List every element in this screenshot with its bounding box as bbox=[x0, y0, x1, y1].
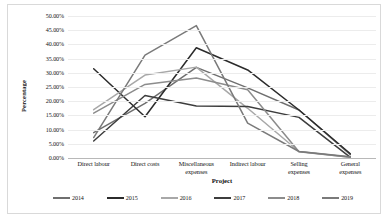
y-axis-tick-label: 10.00% bbox=[46, 127, 64, 133]
gridline bbox=[68, 115, 376, 116]
category-label-line: expenses bbox=[165, 168, 227, 176]
legend-line-icon bbox=[322, 197, 339, 199]
gridline bbox=[68, 44, 376, 45]
y-axis-tick-label: 5.00% bbox=[49, 141, 64, 147]
series-line-2014 bbox=[94, 67, 351, 154]
y-axis-tick-label: 40.00% bbox=[46, 41, 64, 47]
y-axis-tick-label: 30.00% bbox=[46, 70, 64, 76]
legend-item-2016[interactable]: 2016 bbox=[161, 195, 192, 201]
series-line-2018 bbox=[94, 78, 351, 157]
x-axis-category-label: Generalexpenses bbox=[319, 160, 381, 176]
y-axis-tick-label: 15.00% bbox=[46, 112, 64, 118]
legend-label: 2015 bbox=[126, 195, 138, 201]
gridline bbox=[68, 30, 376, 31]
line-chart-figure: Percentage 50.00%45.00%40.00%35.00%30.00… bbox=[7, 4, 381, 214]
legend-item-2014[interactable]: 2014 bbox=[53, 195, 84, 201]
gridline bbox=[68, 16, 376, 17]
legend-label: 2016 bbox=[180, 195, 192, 201]
y-axis-tick-label: 25.00% bbox=[46, 84, 64, 90]
legend-item-2017[interactable]: 2017 bbox=[214, 195, 245, 201]
plot-wrapper: Percentage 50.00%45.00%40.00%35.00%30.00… bbox=[8, 5, 380, 213]
legend-line-icon bbox=[161, 197, 178, 199]
y-axis-tick-label: 35.00% bbox=[46, 56, 64, 62]
legend-label: 2017 bbox=[233, 195, 245, 201]
legend-line-icon bbox=[53, 197, 70, 199]
legend-line-icon bbox=[107, 197, 124, 199]
chart-legend: 201420152016201720182019 bbox=[53, 192, 353, 204]
gridline bbox=[68, 130, 376, 131]
y-axis-tick-labels: 50.00%45.00%40.00%35.00%30.00%25.00%20.0… bbox=[30, 16, 66, 158]
gridline bbox=[68, 101, 376, 102]
legend-item-2018[interactable]: 2018 bbox=[268, 195, 299, 201]
legend-label: 2014 bbox=[72, 195, 84, 201]
y-axis-title: Percentage bbox=[16, 61, 30, 131]
gridline bbox=[68, 59, 376, 60]
legend-item-2015[interactable]: 2015 bbox=[107, 195, 138, 201]
x-axis-title: Project bbox=[68, 177, 376, 184]
legend-item-2019[interactable]: 2019 bbox=[322, 195, 353, 201]
legend-line-icon bbox=[214, 197, 231, 199]
y-axis-tick-label: 45.00% bbox=[46, 27, 64, 33]
plot-area bbox=[68, 16, 376, 158]
category-label-line: General bbox=[319, 160, 381, 168]
gridline bbox=[68, 73, 376, 74]
gridline bbox=[68, 87, 376, 88]
gridline bbox=[68, 144, 376, 145]
x-axis-line bbox=[68, 158, 376, 159]
y-axis-tick-label: 20.00% bbox=[46, 98, 64, 104]
y-axis-tick-label: 50.00% bbox=[46, 13, 64, 19]
legend-label: 2019 bbox=[341, 195, 353, 201]
legend-line-icon bbox=[268, 197, 285, 199]
category-label-line: expenses bbox=[319, 168, 381, 176]
legend-label: 2018 bbox=[287, 195, 299, 201]
